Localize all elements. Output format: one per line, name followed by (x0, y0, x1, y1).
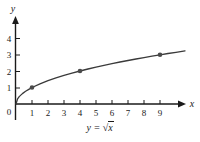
x-tick-label-8: 8 (142, 108, 147, 118)
figure-caption: y = √x (0, 121, 200, 135)
x-tick-label-9: 9 (158, 108, 163, 118)
y-tick-label-1: 1 (7, 83, 12, 93)
data-point-9-3 (158, 53, 163, 58)
x-tick-label-4: 4 (78, 108, 83, 118)
x-tick-label-6: 6 (110, 108, 115, 118)
y-axis-arrowhead (12, 16, 19, 24)
y-tick-label-2: 2 (7, 67, 12, 77)
x-tick-label-3: 3 (62, 108, 67, 118)
x-tick-label-5: 5 (94, 108, 99, 118)
square-root-graph-figure: y x 0 1 2 3 4 5 6 7 8 9 1 2 3 4 y = √x (0, 0, 200, 142)
caption-equals: = (93, 122, 100, 133)
origin-label: 0 (7, 107, 12, 117)
x-tick-label-7: 7 (126, 108, 131, 118)
sqrt-curve (16, 51, 185, 104)
y-tick-label-3: 3 (7, 50, 12, 60)
data-point-4-2 (78, 69, 83, 74)
caption-lhs: y (86, 122, 90, 133)
data-point-1-1 (30, 85, 35, 90)
x-tick-label-2: 2 (46, 108, 51, 118)
y-tick-label-4: 4 (7, 34, 12, 44)
caption-radicand: x (108, 121, 113, 133)
x-axis-arrowhead (178, 101, 186, 108)
x-axis-label: x (189, 98, 195, 109)
x-tick-label-1: 1 (30, 108, 35, 118)
y-axis-label: y (10, 3, 16, 14)
